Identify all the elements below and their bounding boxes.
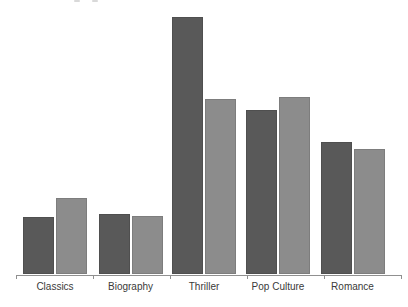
bar-chart: ClassicsBiographyThrillerPop CultureRoma… [0, 0, 408, 307]
bar-biography-dark [99, 214, 130, 274]
x-axis-tick [170, 275, 171, 279]
bar-pop-culture-light [279, 97, 310, 274]
cropped-text-artifact [74, 0, 80, 2]
bar-thriller-light [205, 99, 236, 274]
x-axis-tick [324, 275, 325, 279]
bar-classics-light [56, 198, 87, 274]
x-axis-tick [16, 275, 17, 279]
x-axis-tick [93, 275, 94, 279]
bar-romance-light [354, 149, 385, 274]
x-axis-tick [401, 275, 402, 279]
x-tick-label-romance: Romance [308, 281, 398, 293]
x-axis-line [16, 275, 401, 276]
bar-classics-dark [23, 217, 54, 274]
bar-thriller-dark [172, 17, 203, 274]
bar-biography-light [132, 216, 163, 274]
bar-pop-culture-dark [246, 110, 277, 274]
cropped-text-artifact [92, 0, 98, 2]
bar-romance-dark [321, 142, 352, 274]
x-axis-tick [247, 275, 248, 279]
